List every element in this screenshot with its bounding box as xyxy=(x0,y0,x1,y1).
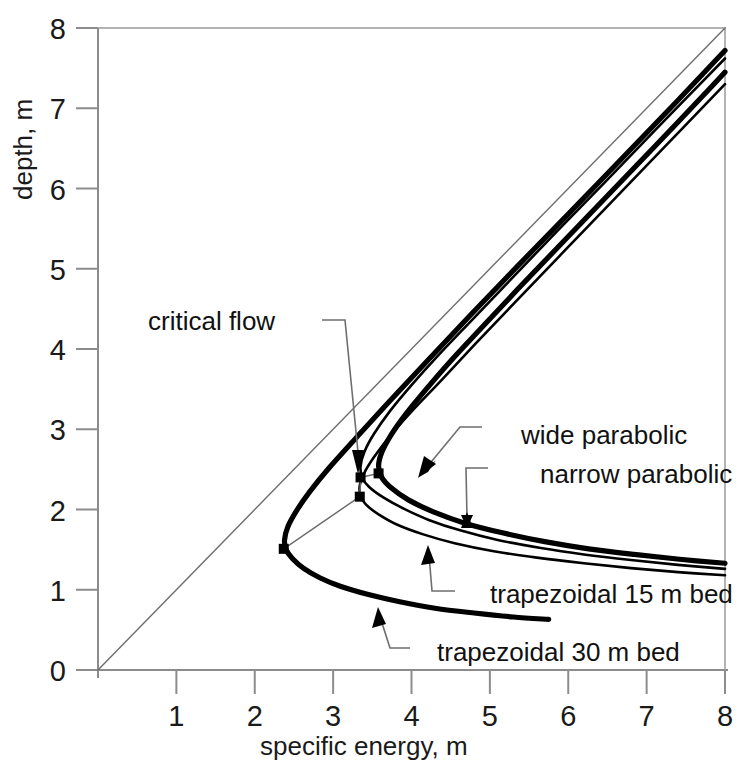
x-axis-title: specific energy, m xyxy=(260,731,468,761)
critical-flow-label: critical flow xyxy=(148,306,275,336)
specific-energy-chart: 012345678 12345678 xyxy=(0,0,756,771)
critical-point-marker xyxy=(374,468,384,478)
wide-parabolic-label: wide parabolic xyxy=(520,420,687,450)
critical-point-marker xyxy=(356,472,366,482)
y-axis-title: depth, m xyxy=(8,99,38,200)
y-tick-label: 1 xyxy=(50,575,66,607)
y-axis-tick-labels: 012345678 xyxy=(50,13,66,687)
narrow-parabolic-label: narrow parabolic xyxy=(540,459,732,489)
x-tick-label: 7 xyxy=(639,700,655,732)
y-tick-label: 3 xyxy=(50,414,66,446)
x-tick-label: 5 xyxy=(482,700,498,732)
x-tick-label: 2 xyxy=(247,700,263,732)
y-tick-label: 5 xyxy=(50,254,66,286)
y-tick-label: 2 xyxy=(50,495,66,527)
chart-canvas: 012345678 12345678 xyxy=(0,0,756,771)
y-tick-label: 0 xyxy=(50,655,66,687)
critical-point-marker xyxy=(355,492,365,502)
trapezoidal-30-label: trapezoidal 30 m bed xyxy=(437,637,680,667)
x-tick-label: 1 xyxy=(168,700,184,732)
y-tick-label: 8 xyxy=(50,13,66,45)
x-tick-label: 4 xyxy=(403,700,419,732)
critical-point-marker xyxy=(279,544,289,554)
y-tick-label: 6 xyxy=(50,174,66,206)
y-tick-label: 4 xyxy=(50,334,66,366)
y-tick-label: 7 xyxy=(50,93,66,125)
x-tick-label: 3 xyxy=(325,700,341,732)
x-tick-label: 8 xyxy=(717,700,733,732)
x-tick-label: 6 xyxy=(560,700,576,732)
trapezoidal-15-label: trapezoidal 15 m bed xyxy=(490,579,733,609)
